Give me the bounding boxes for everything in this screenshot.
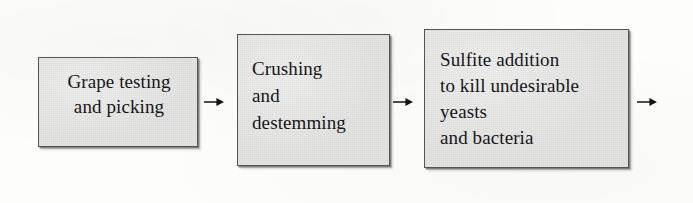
right-arrow-icon <box>636 92 658 112</box>
right-arrow-icon <box>392 92 414 112</box>
flowchart-canvas: Grape testing and picking Crushing and d… <box>0 0 693 203</box>
right-arrow-icon <box>203 92 225 112</box>
flow-node-label-crushing-and-destemming: Crushing and destemming <box>252 55 386 136</box>
flow-node-label-grape-testing-and-picking: Grape testing and picking <box>48 69 190 119</box>
flow-node-label-sulfite-addition: Sulfite addition to kill undesirable yea… <box>440 47 630 151</box>
